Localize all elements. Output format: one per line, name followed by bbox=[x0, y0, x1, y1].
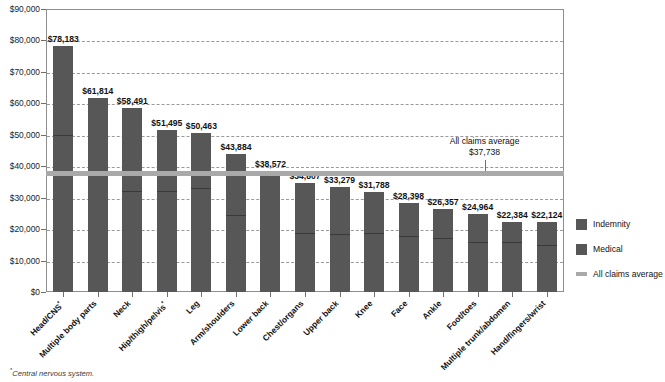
bar-indemnity-segment[interactable] bbox=[537, 222, 557, 246]
bar-group[interactable]: $34,807 bbox=[295, 183, 315, 292]
bar-group[interactable]: $22,124 bbox=[537, 222, 557, 292]
bar-group[interactable]: $78,183 bbox=[53, 46, 73, 292]
y-axis-tick-label: $0 bbox=[31, 288, 40, 296]
bar-value-label: $31,788 bbox=[359, 181, 390, 190]
legend-swatch-icon bbox=[576, 244, 587, 255]
x-axis-tick bbox=[63, 292, 64, 297]
legend-item[interactable]: Indemnity bbox=[576, 218, 664, 230]
bar-group[interactable]: $61,814 bbox=[88, 98, 108, 292]
bar-indemnity-segment[interactable] bbox=[295, 183, 315, 235]
y-axis-tick-label: $40,000 bbox=[10, 162, 40, 170]
bar-indemnity-segment[interactable] bbox=[226, 154, 246, 216]
bar-value-label: $51,495 bbox=[151, 119, 182, 128]
bar-group[interactable]: $31,788 bbox=[364, 192, 384, 292]
x-axis-tick bbox=[98, 292, 99, 297]
y-axis-tick-label: $60,000 bbox=[10, 99, 40, 107]
legend-label: All claims average bbox=[593, 270, 663, 279]
bar-value-label: $22,384 bbox=[497, 211, 528, 220]
legend-label: Medical bbox=[593, 245, 623, 254]
bar-value-label: $28,398 bbox=[393, 192, 424, 201]
bar-group[interactable]: $22,384 bbox=[502, 222, 522, 292]
bar-value-label: $61,814 bbox=[82, 87, 113, 96]
bar-indemnity-segment[interactable] bbox=[468, 214, 488, 243]
bar-value-label: $58,491 bbox=[117, 97, 148, 106]
x-axis-label-leg: Leg bbox=[185, 299, 202, 316]
bar-indemnity-segment[interactable] bbox=[433, 209, 453, 239]
all-claims-average-annotation: All claims average $37,738 bbox=[430, 136, 540, 158]
legend: IndemnityMedicalAll claims average bbox=[576, 218, 664, 293]
x-axis-tick bbox=[409, 292, 410, 297]
x-axis-label-upper-back: Upper back bbox=[301, 299, 340, 338]
bar-value-label: $43,884 bbox=[220, 143, 251, 152]
bar-group[interactable]: $38,572 bbox=[260, 171, 280, 292]
x-axis-tick bbox=[167, 292, 168, 297]
bar-group[interactable]: $51,495 bbox=[157, 130, 177, 292]
y-axis-tick-label: $30,000 bbox=[10, 194, 40, 202]
bar-medical-segment[interactable] bbox=[260, 171, 280, 292]
y-axis-tick-label: $50,000 bbox=[10, 131, 40, 139]
y-axis-tick-label: $80,000 bbox=[10, 36, 40, 44]
y-axis-tick bbox=[41, 292, 46, 293]
bar-indemnity-segment[interactable] bbox=[399, 203, 419, 237]
x-axis-tick bbox=[201, 292, 202, 297]
bar-group[interactable]: $50,463 bbox=[191, 133, 211, 292]
x-axis-label-ankle: Ankle bbox=[421, 299, 443, 321]
bar-indemnity-segment[interactable] bbox=[122, 108, 142, 192]
x-axis-label-foot-toes: Foot/toes bbox=[445, 299, 478, 332]
bar-indemnity-segment[interactable] bbox=[157, 130, 177, 192]
all-claims-average-line bbox=[46, 171, 564, 176]
legend-swatch-icon bbox=[576, 219, 587, 230]
x-axis-tick bbox=[132, 292, 133, 297]
claim-cost-bar-chart: $90,000$80,000$70,000$60,000$50,000$40,0… bbox=[0, 0, 665, 382]
bar-value-label: $78,183 bbox=[48, 35, 79, 44]
x-axis-tick bbox=[236, 292, 237, 297]
legend-item[interactable]: Medical bbox=[576, 243, 664, 255]
x-axis-tick bbox=[478, 292, 479, 297]
bar-value-label: $22,124 bbox=[531, 211, 562, 220]
average-value: $37,738 bbox=[430, 147, 540, 158]
x-axis-tick bbox=[443, 292, 444, 297]
bar-value-label: $26,357 bbox=[428, 198, 459, 207]
y-axis-tick-label: $10,000 bbox=[10, 257, 40, 265]
bar-indemnity-segment[interactable] bbox=[88, 98, 108, 176]
bar-group[interactable]: $33,279 bbox=[330, 187, 350, 292]
bar-value-label: $38,572 bbox=[255, 160, 286, 169]
bar-indemnity-segment[interactable] bbox=[53, 46, 73, 136]
bar-group[interactable]: $28,398 bbox=[399, 203, 419, 292]
x-axis-tick bbox=[547, 292, 548, 297]
y-axis-tick-label: $20,000 bbox=[10, 225, 40, 233]
bar-indemnity-segment[interactable] bbox=[502, 222, 522, 243]
bar-group[interactable]: $26,357 bbox=[433, 209, 453, 292]
bar-group[interactable]: $24,964 bbox=[468, 214, 488, 292]
average-leader-line bbox=[485, 160, 486, 171]
legend-swatch-icon bbox=[576, 272, 587, 276]
x-axis-label-knee: Knee bbox=[354, 299, 375, 320]
bar-indemnity-segment[interactable] bbox=[330, 187, 350, 235]
legend-item[interactable]: All claims average bbox=[576, 268, 664, 280]
x-axis-tick bbox=[340, 292, 341, 297]
x-axis-label-neck: Neck bbox=[112, 299, 133, 320]
x-axis-tick bbox=[270, 292, 271, 297]
bar-value-label: $24,964 bbox=[462, 203, 493, 212]
bar-indemnity-segment[interactable] bbox=[364, 192, 384, 234]
x-axis-tick bbox=[374, 292, 375, 297]
footnote-text: Central nervous system. bbox=[12, 369, 94, 378]
x-axis-tick bbox=[305, 292, 306, 297]
y-axis-tick-label: $70,000 bbox=[10, 68, 40, 76]
bar-value-label: $50,463 bbox=[186, 122, 217, 131]
footnote: *Central nervous system. bbox=[10, 366, 94, 378]
bar-value-label: $33,279 bbox=[324, 176, 355, 185]
average-label: All claims average bbox=[430, 136, 540, 147]
bar-indemnity-segment[interactable] bbox=[191, 133, 211, 189]
legend-label: Indemnity bbox=[593, 220, 630, 229]
x-axis-tick bbox=[512, 292, 513, 297]
bar-group[interactable]: $58,491 bbox=[122, 108, 142, 292]
x-axis-label-face: Face bbox=[389, 299, 409, 319]
y-axis-tick-label: $90,000 bbox=[10, 5, 40, 13]
